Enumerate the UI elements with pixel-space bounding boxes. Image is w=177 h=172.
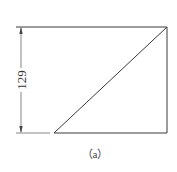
arrow-down-icon xyxy=(19,126,22,133)
dimension-label: 129 xyxy=(14,70,29,90)
diagonal-line xyxy=(54,27,167,133)
figure-caption: （a） xyxy=(82,148,109,160)
arrow-up-icon xyxy=(19,27,22,34)
diagram-canvas: 129 （a） xyxy=(0,0,177,172)
